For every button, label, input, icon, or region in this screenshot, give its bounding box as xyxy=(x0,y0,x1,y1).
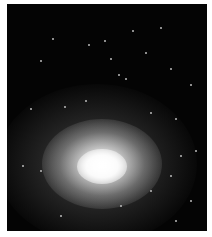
star xyxy=(170,68,172,70)
star xyxy=(30,108,32,110)
star xyxy=(132,30,134,32)
star xyxy=(110,58,112,60)
star xyxy=(150,112,152,114)
star xyxy=(85,100,87,102)
star xyxy=(125,78,127,80)
star xyxy=(52,38,54,40)
star xyxy=(88,44,90,46)
star xyxy=(40,60,42,62)
star xyxy=(120,205,122,207)
star xyxy=(175,220,177,222)
star xyxy=(60,215,62,217)
star xyxy=(40,170,42,172)
star xyxy=(195,150,197,152)
star xyxy=(22,165,24,167)
star xyxy=(160,27,162,29)
star xyxy=(64,106,66,108)
star xyxy=(180,155,182,157)
star xyxy=(118,74,120,76)
star xyxy=(190,200,192,202)
nebula-bright-center xyxy=(77,149,127,184)
photo-frame xyxy=(7,4,207,231)
star xyxy=(145,52,147,54)
star xyxy=(170,175,172,177)
star xyxy=(104,40,106,42)
star xyxy=(175,118,177,120)
star xyxy=(190,84,192,86)
star xyxy=(150,190,152,192)
